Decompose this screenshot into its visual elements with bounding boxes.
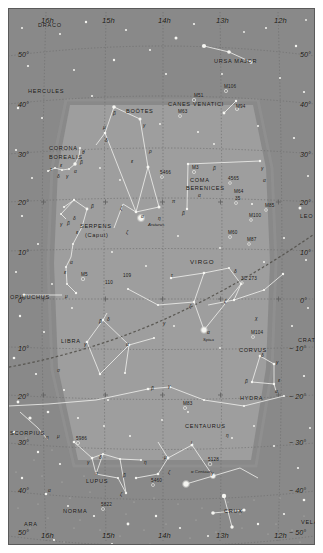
sky-field: DRACOURSA MAJORHERCULESBOÖTESCANES VENAT… [8,8,315,545]
star-chart: DRACOURSA MAJORHERCULESBOÖTESCANES VENAT… [0,0,323,553]
sky-canvas [8,8,315,545]
